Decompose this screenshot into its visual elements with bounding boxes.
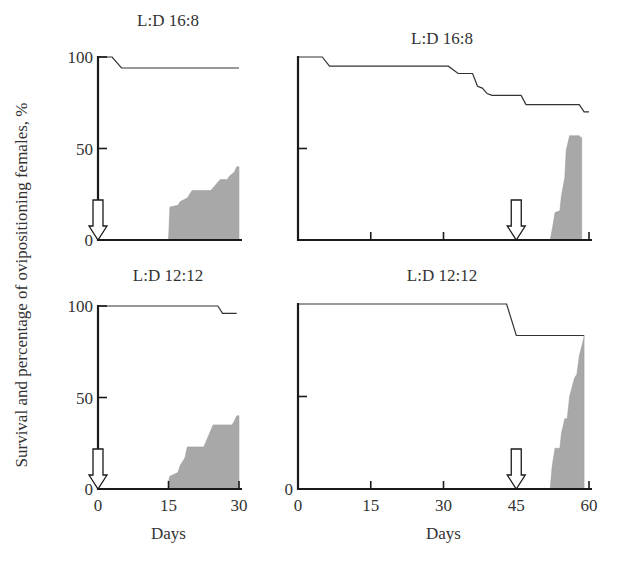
- y-axis-label: Survival and percentage of ovipositionin…: [12, 103, 32, 468]
- panel-title: L:D 16:8: [411, 29, 473, 48]
- x-tick-label: 30: [231, 496, 248, 515]
- y-tick-label: 0: [85, 231, 94, 250]
- survival-line: [98, 57, 239, 68]
- chart-canvas: L:D 16:8050100L:D 16:8L:D 12:12050100015…: [0, 0, 628, 569]
- oviposition-area: [169, 167, 240, 240]
- down-arrow-icon: [507, 200, 525, 240]
- x-tick-label: 30: [435, 496, 452, 515]
- panel-title: L:D 12:12: [133, 266, 203, 285]
- oviposition-area: [169, 416, 240, 489]
- panel-bottom-right: L:D 12:120015304560Days: [285, 266, 598, 543]
- figure: Survival and percentage of ovipositionin…: [0, 0, 628, 569]
- x-tick-label: 0: [294, 496, 303, 515]
- x-axis-label: Days: [426, 524, 461, 543]
- panel-bottom-left: L:D 12:1205010001530Days: [68, 266, 248, 543]
- oviposition-area: [550, 336, 584, 490]
- survival-line: [98, 306, 237, 313]
- panel-top-left: L:D 16:8050100: [68, 11, 243, 250]
- x-tick-label: 15: [362, 496, 379, 515]
- y-tick-label: 100: [68, 48, 94, 67]
- x-tick-label: 15: [160, 496, 177, 515]
- down-arrow-icon: [507, 449, 525, 489]
- x-axis-label: Days: [151, 524, 186, 543]
- y-tick-label: 100: [68, 297, 94, 316]
- panel-title: L:D 16:8: [137, 11, 199, 30]
- y-tick-label: 50: [76, 389, 93, 408]
- survival-line: [298, 304, 584, 336]
- x-tick-label: 60: [581, 496, 598, 515]
- panel-title: L:D 12:12: [407, 266, 477, 285]
- y-tick-label: 0: [85, 480, 94, 499]
- x-tick-label: 0: [94, 496, 103, 515]
- x-tick-label: 45: [508, 496, 525, 515]
- y-tick-label: 0: [285, 480, 294, 499]
- survival-line: [298, 57, 589, 112]
- panel-top-right: L:D 16:8: [298, 29, 592, 241]
- oviposition-area: [550, 136, 582, 240]
- y-tick-label: 50: [76, 140, 93, 159]
